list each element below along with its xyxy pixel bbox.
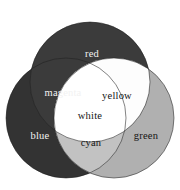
venn-label-blue: blue xyxy=(31,131,50,142)
venn-diagram-canvas xyxy=(0,0,180,190)
venn-label-yellow: yellow xyxy=(102,91,132,102)
venn-diagram: red blue green magenta yellow cyan white xyxy=(0,0,180,190)
venn-label-cyan: cyan xyxy=(81,138,102,149)
venn-label-magenta: magenta xyxy=(45,88,82,99)
venn-label-white: white xyxy=(78,111,102,122)
venn-label-red: red xyxy=(85,49,99,60)
venn-label-green: green xyxy=(134,131,158,142)
